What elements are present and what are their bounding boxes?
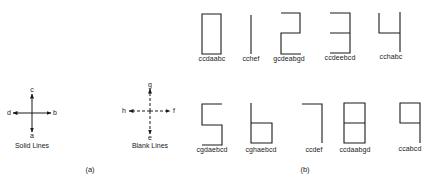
digit-4-glyph xyxy=(379,12,400,52)
digit-5-glyph xyxy=(202,104,222,145)
digit-9-code: ccabcd xyxy=(399,145,422,153)
digit-9-glyph xyxy=(400,103,420,143)
label-a: a xyxy=(30,132,34,140)
digit-3-code: ccdeebcd xyxy=(325,54,356,62)
caption-b: (b) xyxy=(300,165,309,174)
digit-2-glyph xyxy=(281,13,301,54)
label-b: b xyxy=(53,109,57,117)
label-f: f xyxy=(173,107,175,115)
solid-lines-title: Solid Lines xyxy=(15,141,49,150)
digit-5-code: cgdaebcd xyxy=(196,146,227,154)
blank-lines-key xyxy=(129,89,170,134)
label-c: c xyxy=(30,86,34,94)
digit-4-code: cchabc xyxy=(380,53,403,61)
digit-8-glyph xyxy=(344,103,365,143)
label-d: d xyxy=(7,109,11,117)
digit-6-glyph xyxy=(251,103,272,143)
digit-0-glyph xyxy=(202,14,221,54)
digit-8-code: ccdaabgd xyxy=(339,146,370,154)
digit-2-code: gcdeabgd xyxy=(273,55,305,63)
digit-7-glyph xyxy=(302,104,322,143)
digit-6-code: cghaebcd xyxy=(245,146,276,154)
caption-a: (a) xyxy=(85,165,94,174)
digit-7-code: ccdef xyxy=(305,146,322,154)
digit-1-code: cchef xyxy=(242,55,259,63)
label-h: h xyxy=(122,107,126,115)
solid-lines-key xyxy=(13,94,51,132)
digit-0-code: ccdaabc xyxy=(199,55,226,63)
blank-lines-title: Blank Lines xyxy=(132,141,168,150)
diagram-canvas xyxy=(0,0,431,182)
digit-3-glyph xyxy=(330,13,350,53)
label-g: g xyxy=(148,81,152,89)
